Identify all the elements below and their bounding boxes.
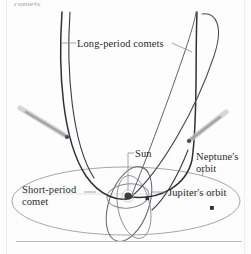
label-long-period-comets: Long-period comets <box>77 38 164 50</box>
label-neptune-orbit: Neptune's orbit <box>196 151 248 174</box>
jupiter-dot <box>146 197 150 201</box>
comet-right-nucleus <box>187 139 191 143</box>
comet-left-nucleus <box>65 135 69 139</box>
sun-dot <box>124 192 131 199</box>
label-jupiter-orbit: Jupiter's orbit <box>168 187 227 199</box>
neptune-dot <box>210 206 214 210</box>
figure-panel: comets <box>0 0 251 254</box>
leader-long-period-right <box>172 43 192 52</box>
comet-left <box>20 108 69 139</box>
comet-left-tail-inner <box>26 112 66 136</box>
label-sun: Sun <box>135 148 152 160</box>
label-short-period-comet: Short-period comet <box>22 184 84 207</box>
long-period-comet-orbit-left-return <box>69 12 94 178</box>
comet-right <box>187 112 226 143</box>
